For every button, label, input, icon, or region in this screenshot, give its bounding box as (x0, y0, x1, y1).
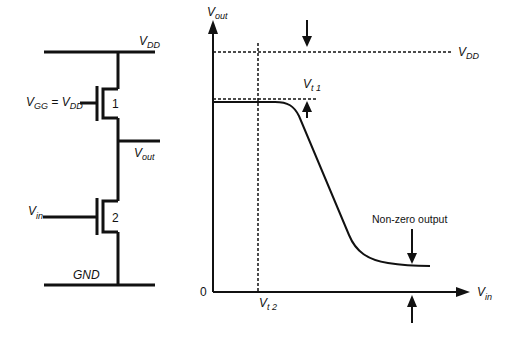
baseline-arrowhead (407, 295, 417, 307)
vdd-line-label: VDD (458, 45, 480, 61)
y-axis-label: Vout (207, 5, 228, 21)
circuit-schematic (43, 52, 160, 285)
vt1-bottom-arrowhead (302, 101, 312, 112)
vin-label: Vin (28, 204, 43, 221)
vdd-label: VDD (139, 34, 161, 50)
x-axis-label: Vin (477, 285, 492, 302)
vout-node-label: Vout (134, 146, 155, 162)
vt1-label: Vt 1 (303, 77, 321, 93)
transfer-characteristic-graph (208, 20, 470, 323)
non-zero-output-arrowhead (407, 253, 417, 264)
non-zero-output-annotation: Non-zero output (372, 213, 447, 225)
transistor-2-symbol (43, 198, 118, 235)
transistor-1-label: 1 (112, 97, 119, 111)
vout-vs-vin-curve (213, 102, 430, 266)
vt2-label: Vt 2 (259, 296, 277, 312)
vgg-label: VGG = VDD (26, 95, 83, 111)
nmos-inverter-diagram: VDD VGG = VDD 1 Vout Vin 2 GND (0, 0, 512, 337)
vt1-top-arrowhead (302, 36, 312, 47)
x-axis-arrowhead (456, 287, 470, 297)
gnd-label: GND (73, 268, 100, 282)
transistor-2-label: 2 (112, 211, 119, 225)
origin-label: 0 (200, 285, 207, 299)
y-axis-arrowhead (208, 20, 218, 34)
